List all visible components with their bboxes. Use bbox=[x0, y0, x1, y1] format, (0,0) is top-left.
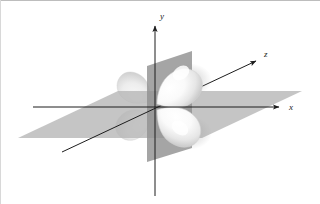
orbital-figure: x y z bbox=[0, 0, 320, 204]
orbital-diagram-canvas: x y z bbox=[0, 0, 320, 204]
axis-label-y: y bbox=[159, 11, 164, 21]
axis-label-x: x bbox=[288, 102, 293, 112]
axis-label-z: z bbox=[263, 49, 268, 59]
